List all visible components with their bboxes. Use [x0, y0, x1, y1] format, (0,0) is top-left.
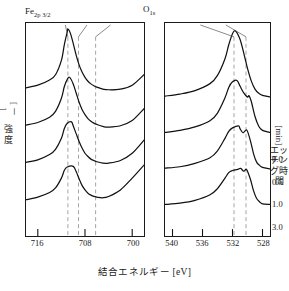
etching-time-unit: [min]	[274, 125, 285, 145]
panel-title-o-sub: 1s	[150, 9, 156, 16]
panel-title-o: O1s	[143, 4, 155, 16]
panel-title-fe-sub: 2p 3/2	[34, 11, 50, 18]
panel-title-fe-main: Fe	[25, 6, 34, 16]
x-tick-label: 536	[196, 238, 209, 248]
etching-time-value: 0.0	[272, 154, 283, 164]
etching-time-value: 3.0	[272, 222, 283, 232]
x-tick-labels-fe: 716708700	[25, 238, 145, 250]
spectrum-curve-3-0	[26, 165, 144, 200]
y-axis-label-char1: 強	[0, 124, 17, 135]
leader-line-fe0	[96, 25, 111, 37]
guide-lines-fe	[68, 37, 96, 236]
x-tick-label: 716	[31, 238, 44, 248]
plot-svg-o	[165, 23, 270, 236]
leader-line-fe2+	[79, 25, 87, 37]
leader-lines-o	[200, 25, 246, 37]
plot-panel-fe	[25, 22, 145, 237]
spectra-curves-fe	[26, 29, 144, 200]
x-tick-label: 532	[226, 238, 239, 248]
plot-svg-fe	[26, 23, 144, 236]
y-axis-label-left: [ － ] 強 度	[0, 96, 17, 146]
x-axis-caption: 結合エネルギー [eV]	[0, 264, 289, 278]
x-tick-label: 708	[79, 238, 92, 248]
y-axis-unit-left: [ － ]	[0, 100, 19, 118]
plot-panel-o	[164, 22, 271, 237]
xps-figure: [ － ] 強 度 [min] エッチング時間 Fe2p 3/2 O1s Fe3…	[0, 0, 289, 291]
spectra-curves-o	[165, 31, 270, 205]
spectrum-curve-1-0	[26, 122, 144, 164]
y-axis-label-char2: 度	[0, 135, 17, 146]
spectrum-curve-0-5	[26, 77, 144, 127]
panel-title-fe: Fe2p 3/2	[25, 6, 50, 18]
leader-lines-fe	[65, 25, 110, 37]
x-tick-label: 540	[165, 238, 178, 248]
spectrum-curve-3-0	[165, 168, 270, 204]
spectrum-curve-0-0	[165, 31, 270, 97]
etching-time-value: 0.5	[272, 177, 283, 187]
spectrum-curve-0-0	[26, 29, 144, 90]
spectrum-curve-1-0	[165, 126, 270, 169]
x-tick-labels-o: 540536532528	[164, 238, 271, 250]
x-tick-label: 528	[257, 238, 270, 248]
etching-time-value: 1.0	[272, 199, 283, 209]
x-tick-label: 700	[127, 238, 140, 248]
guide-lines-o	[234, 37, 246, 236]
